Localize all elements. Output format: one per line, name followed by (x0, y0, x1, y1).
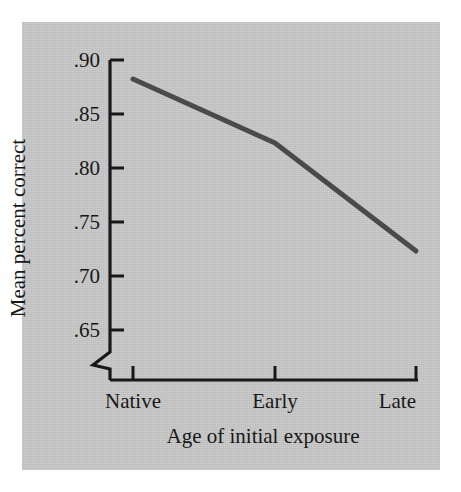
data-line-mean-percent-correct (133, 79, 416, 251)
y-axis-break-zigzag (93, 348, 110, 380)
y-tick-label-070: .70 (58, 266, 100, 287)
y-tick-label-085: .85 (58, 104, 100, 125)
y-axis-ticks (110, 60, 124, 330)
y-tick-label-090: .90 (58, 50, 100, 71)
x-tick-label-late: Late (379, 391, 416, 412)
y-axis-title: Mean percent correct (6, 139, 31, 317)
figure-container: .90 .85 .80 .75 .70 .65 Native Early Lat… (0, 0, 461, 492)
x-tick-label-native: Native (105, 391, 161, 412)
x-axis-title: Age of initial exposure (166, 424, 359, 449)
y-tick-label-065: .65 (58, 320, 100, 341)
y-tick-label-080: .80 (58, 158, 100, 179)
x-axis-ticks (133, 366, 416, 380)
x-tick-label-early: Early (252, 391, 297, 412)
chart-plot-area (0, 0, 461, 492)
y-tick-label-075: .75 (58, 212, 100, 233)
